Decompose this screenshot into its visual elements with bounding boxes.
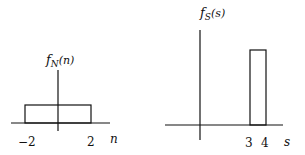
- left-tick-2: 2: [87, 135, 95, 149]
- right-title: fS(s): [199, 5, 225, 22]
- diagram-canvas: fN(n) −2 2 n fS(s) 3 4 s: [0, 0, 305, 155]
- left-plot: fN(n) −2 2 n: [11, 52, 118, 149]
- right-tick-4: 4: [261, 136, 269, 150]
- left-axis-label: n: [110, 132, 118, 146]
- right-tick-3: 3: [245, 136, 253, 150]
- right-rect-pulse: [250, 50, 266, 125]
- left-title: fN(n): [45, 52, 74, 69]
- right-axis-label: s: [284, 135, 290, 149]
- left-tick-minus2: −2: [18, 135, 36, 149]
- right-plot: fS(s) 3 4 s: [165, 5, 290, 150]
